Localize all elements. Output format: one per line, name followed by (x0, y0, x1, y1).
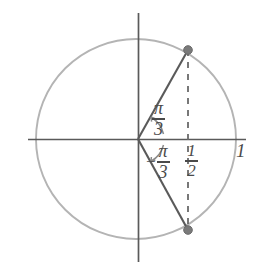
fraction-pi-over-3: π 3 (152, 99, 165, 139)
fraction-one-half: 1 2 (185, 142, 198, 180)
fraction-numerator: 1 (186, 142, 197, 160)
fraction-numerator: π (158, 142, 169, 161)
fraction-numerator: π (153, 99, 164, 118)
unit-circle-figure: π 3 − π 3 1 2 1 (0, 0, 259, 270)
fraction-pi-over-3-negative: π 3 (157, 142, 170, 182)
terminal-point-lower (184, 226, 193, 235)
cosine-value-label-one-half: 1 2 (185, 142, 198, 180)
terminal-point-upper (184, 46, 193, 55)
x-intercept-label-one: 1 (236, 141, 246, 160)
fraction-denominator: 3 (158, 163, 169, 182)
fraction-denominator: 2 (186, 162, 197, 180)
unit-circle-diagram (0, 0, 259, 270)
angle-label-negative-pi-over-3: − π 3 (146, 142, 170, 182)
minus-sign: − (146, 153, 156, 170)
fraction-denominator: 3 (153, 120, 164, 139)
angle-label-pi-over-3: π 3 (152, 99, 165, 139)
